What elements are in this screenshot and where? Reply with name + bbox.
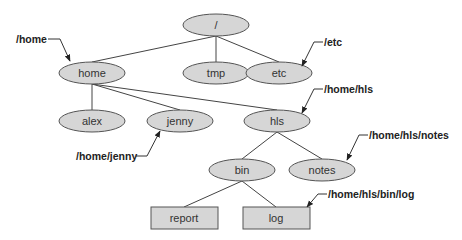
node-label: tmp	[207, 67, 225, 79]
directory-tree-diagram: / home tmp etc alex jenny hls bin notes …	[0, 0, 462, 240]
path-label: /home/hls/bin/log	[328, 188, 414, 200]
callout-notes: /home/hls/notes	[347, 129, 449, 160]
callout-hls: /home/hls	[302, 83, 373, 113]
node-label: notes	[309, 164, 336, 176]
edge-root-etc	[216, 36, 279, 62]
node-log: log	[243, 207, 310, 229]
path-label: /home	[16, 33, 47, 45]
node-label: etc	[272, 67, 287, 79]
node-label: jenny	[166, 115, 194, 127]
node-root: /	[183, 14, 249, 36]
path-label: /home/hls/notes	[369, 129, 449, 141]
path-label: /home/jenny	[76, 150, 137, 162]
callout-jenny: /home/jenny	[76, 131, 160, 162]
path-label: /home/hls	[324, 83, 373, 95]
node-label: report	[170, 212, 199, 224]
node-label: hls	[270, 115, 285, 127]
node-label: home	[78, 67, 106, 79]
edge-home-jenny	[92, 84, 180, 110]
path-label: /etc	[324, 36, 342, 48]
node-jenny: jenny	[147, 110, 213, 132]
node-bin: bin	[209, 159, 275, 181]
edge-hls-bin	[242, 132, 277, 159]
node-notes: notes	[289, 159, 355, 181]
node-label: alex	[82, 115, 103, 127]
edge-bin-log	[242, 181, 276, 207]
edge-root-home	[92, 36, 216, 62]
callout-log: /home/hls/bin/log	[307, 188, 414, 207]
node-alex: alex	[59, 110, 125, 132]
edge-home-hls	[92, 84, 277, 110]
node-tmp: tmp	[183, 62, 249, 84]
node-hls: hls	[244, 110, 310, 132]
callout-etc: /etc	[302, 36, 342, 66]
node-home: home	[59, 62, 125, 84]
node-report: report	[151, 207, 218, 229]
edge-bin-report	[184, 181, 242, 207]
edge-hls-notes	[277, 132, 322, 159]
node-label: log	[269, 212, 284, 224]
node-label: bin	[235, 164, 250, 176]
callout-home: /home	[16, 33, 70, 61]
